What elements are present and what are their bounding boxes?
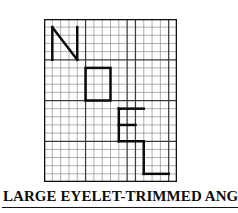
chart-grid-svg <box>44 19 177 182</box>
cross-stitch-chart <box>44 19 177 182</box>
caption: LARGE EYELET-TRIMMED ANGEL <box>0 186 238 210</box>
chart-page: LARGE EYELET-TRIMMED ANGEL <box>0 0 238 213</box>
caption-text: LARGE EYELET-TRIMMED ANGEL <box>2 186 238 208</box>
